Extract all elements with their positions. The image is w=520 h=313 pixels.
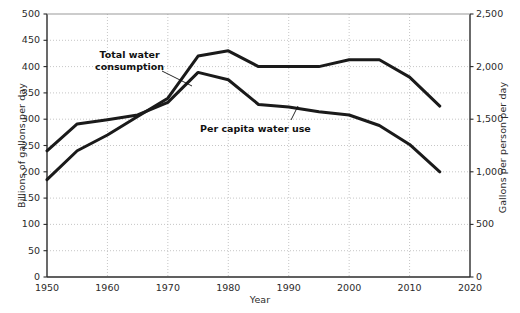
- y-right-tick-2500: 2,500: [476, 8, 520, 19]
- y-left-tick-400: 400: [0, 61, 40, 72]
- chart-canvas: [0, 0, 520, 313]
- y-left-tick-500: 500: [0, 8, 40, 19]
- annotation-total-line1: Total water: [95, 49, 164, 61]
- x-axis-title: Year: [0, 294, 520, 305]
- y-left-tick-200: 200: [0, 166, 40, 177]
- x-tick-1960: 1960: [82, 282, 132, 293]
- y-left-tick-300: 300: [0, 113, 40, 124]
- y-left-tick-350: 350: [0, 87, 40, 98]
- y-left-tick-100: 100: [0, 218, 40, 229]
- y-right-tick-1000: 1,000: [476, 166, 520, 177]
- y-left-tick-0: 0: [0, 271, 40, 282]
- annotation-total-line2: consumption: [95, 61, 164, 73]
- y-left-tick-450: 450: [0, 34, 40, 45]
- y-right-tick-500: 500: [476, 218, 520, 229]
- x-tick-2020: 2020: [445, 282, 495, 293]
- x-tick-1980: 1980: [203, 282, 253, 293]
- x-tick-1990: 1990: [264, 282, 314, 293]
- annotation-total-water-consumption: Total water consumption: [95, 49, 164, 72]
- x-tick-2000: 2000: [324, 282, 374, 293]
- water-use-chart: Billions of gallons per day Gallons per …: [0, 0, 520, 313]
- x-tick-2010: 2010: [385, 282, 435, 293]
- x-tick-1970: 1970: [143, 282, 193, 293]
- y-right-tick-1500: 1,500: [476, 113, 520, 124]
- annotation-per-capita-water-use: Per capita water use: [200, 123, 311, 135]
- x-tick-1950: 1950: [22, 282, 72, 293]
- y-right-tick-0: 0: [476, 271, 520, 282]
- y-right-tick-2000: 2,000: [476, 61, 520, 72]
- y-left-tick-50: 50: [0, 245, 40, 256]
- y-left-tick-250: 250: [0, 140, 40, 151]
- y-left-tick-150: 150: [0, 192, 40, 203]
- annotation-capita-line1: Per capita water use: [200, 123, 311, 135]
